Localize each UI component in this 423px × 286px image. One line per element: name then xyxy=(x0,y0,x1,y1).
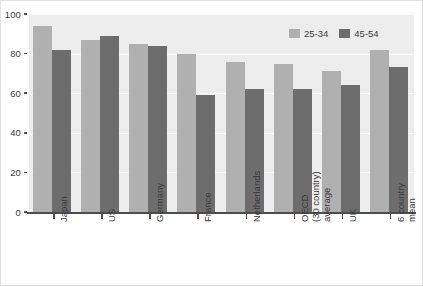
legend-entry[interactable]: 45-54 xyxy=(339,28,378,39)
y-axis-tick-mark xyxy=(24,53,27,55)
x-axis-tick-mark xyxy=(197,214,199,219)
bar-chart-figure: 020406080100 25-3445-54 JapanUSGermanyFr… xyxy=(0,0,423,286)
y-axis: 020406080100 xyxy=(1,1,29,221)
y-axis-tick: 20 xyxy=(10,166,29,178)
x-axis-tick-label: Germany xyxy=(154,183,165,222)
y-axis-tick-mark xyxy=(24,13,27,15)
legend-swatch xyxy=(289,29,300,38)
bar xyxy=(33,26,52,212)
x-axis-tick-label: Netherlands xyxy=(251,171,262,222)
x-axis-tick-mark xyxy=(342,214,344,219)
legend-label: 25-34 xyxy=(304,28,328,39)
x-axis-tick-mark xyxy=(101,214,103,219)
x-axis-tick-mark xyxy=(149,214,151,219)
bar-group xyxy=(81,14,119,212)
y-axis-tick-mark xyxy=(24,132,27,134)
x-axis-label-line: average xyxy=(321,171,332,222)
bar xyxy=(226,62,245,212)
bar xyxy=(100,36,119,212)
chart-legend: 25-3445-54 xyxy=(289,28,379,39)
x-axis-tick-mark xyxy=(53,214,55,219)
y-axis-tick-label: 20 xyxy=(10,167,21,178)
y-axis-tick: 40 xyxy=(10,127,29,139)
x-axis-tick-label: Japan xyxy=(58,196,69,222)
y-axis-tick-label: 0 xyxy=(16,207,21,218)
x-axis-label-line: mean xyxy=(406,183,417,222)
x-axis-tick-label: OECD(30 country)average xyxy=(299,171,332,222)
bar xyxy=(177,54,196,212)
x-axis-label-line: Netherlands xyxy=(251,171,262,222)
legend-swatch xyxy=(339,29,350,38)
bar-group xyxy=(33,14,71,212)
y-axis-tick-mark xyxy=(24,172,27,174)
y-axis-tick-mark xyxy=(24,92,27,94)
bar-group xyxy=(177,14,215,212)
x-axis-label-line: France xyxy=(202,192,213,222)
x-axis-tick-label: 6 countrymean xyxy=(395,183,417,222)
plot-area xyxy=(29,14,414,212)
x-axis-tick-label: US xyxy=(106,209,117,222)
bar xyxy=(129,44,148,212)
y-axis-tick-label: 60 xyxy=(10,88,21,99)
y-axis-tick-label: 100 xyxy=(5,9,21,20)
legend-label: 45-54 xyxy=(354,28,378,39)
x-axis-label-line: 6 country xyxy=(395,183,406,222)
x-axis-tick-label: France xyxy=(202,192,213,222)
y-axis-tick-label: 40 xyxy=(10,127,21,138)
y-axis-tick: 100 xyxy=(5,8,29,20)
x-axis-tick-mark xyxy=(390,214,392,219)
y-axis-tick-label: 80 xyxy=(10,48,21,59)
legend-entry[interactable]: 25-34 xyxy=(289,28,328,39)
x-axis-label-line: US xyxy=(106,209,117,222)
x-axis-tick-label: UK xyxy=(347,209,358,222)
bar xyxy=(81,40,100,212)
x-axis-label-line: UK xyxy=(347,209,358,222)
bar xyxy=(341,85,360,212)
x-axis-tick-mark xyxy=(246,214,248,219)
bar xyxy=(274,64,293,213)
bar xyxy=(370,50,389,212)
x-axis-label-line: Japan xyxy=(58,196,69,222)
bar xyxy=(52,50,71,212)
y-axis-tick: 60 xyxy=(10,87,29,99)
x-axis-label-line: OECD xyxy=(299,171,310,222)
x-axis-label-line: Germany xyxy=(154,183,165,222)
x-axis-tick-mark xyxy=(294,214,296,219)
x-axis-label-line: (30 country) xyxy=(310,171,321,222)
y-axis-tick: 80 xyxy=(10,48,29,60)
